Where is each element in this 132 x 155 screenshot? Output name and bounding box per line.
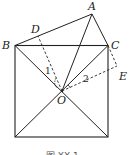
label-d: D	[30, 23, 40, 36]
angle-arc-2	[68, 85, 70, 88]
point-o	[61, 90, 63, 92]
label-c: C	[111, 39, 120, 52]
label-o: O	[57, 94, 66, 107]
segment-ab	[15, 14, 92, 46]
segment-ac	[92, 14, 108, 46]
label-a: A	[87, 0, 96, 13]
label-angle-1: 1	[45, 66, 51, 76]
geometry-figure: A B C D E O 1 2 图 XX-1	[0, 0, 132, 155]
label-b: B	[1, 39, 10, 52]
dashed-od	[38, 36, 62, 91]
label-angle-2: 2	[83, 74, 89, 84]
figure-caption: 图 XX-1	[46, 151, 79, 155]
label-e: E	[118, 70, 127, 83]
